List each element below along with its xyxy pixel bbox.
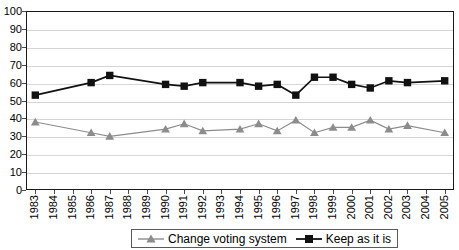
data-point-square xyxy=(274,81,281,88)
data-point-square xyxy=(404,79,411,86)
x-axis-tick xyxy=(203,190,204,194)
x-axis-tick xyxy=(91,190,92,194)
x-axis-tick xyxy=(259,190,260,194)
x-axis-tick-label: 2001 xyxy=(364,195,375,219)
data-point-triangle xyxy=(31,118,40,126)
x-axis-tick-label: 2002 xyxy=(383,195,394,219)
series-keep-as-it-is xyxy=(32,72,449,99)
data-point-square xyxy=(385,77,392,84)
x-axis-tick xyxy=(426,190,427,194)
x-axis-tick xyxy=(73,190,74,194)
data-point-square xyxy=(87,79,94,86)
legend-label-keep-as-it-is: Keep as it is xyxy=(326,233,391,245)
data-point-triangle xyxy=(291,116,300,124)
x-axis-tick-label: 1989 xyxy=(141,195,152,219)
series-change-voting-system xyxy=(31,116,449,140)
x-axis-tick xyxy=(333,190,334,194)
x-axis-tick-label: 1986 xyxy=(85,195,96,219)
data-point-square xyxy=(348,81,355,88)
data-point-triangle xyxy=(403,121,412,129)
x-axis-tick xyxy=(184,190,185,194)
x-axis-tick xyxy=(54,190,55,194)
x-axis-tick-label: 1996 xyxy=(271,195,282,219)
x-axis-tick-label: 1984 xyxy=(48,195,59,219)
x-axis-tick-label: 1990 xyxy=(160,195,171,219)
x-axis-tick xyxy=(445,190,446,194)
y-axis-tick-label: 90 xyxy=(10,23,22,34)
data-point-square xyxy=(292,91,299,98)
data-point-triangle xyxy=(254,120,263,128)
data-point-square xyxy=(180,82,187,89)
x-axis-tick-label: 1993 xyxy=(215,195,226,219)
y-axis: 1009080706050403020100 xyxy=(0,0,26,201)
x-axis-tick-label: 1983 xyxy=(29,195,40,219)
x-axis-tick xyxy=(370,190,371,194)
y-axis-tick-label: 80 xyxy=(10,41,22,52)
x-axis-tick-label: 1992 xyxy=(197,195,208,219)
y-axis-tick-label: 10 xyxy=(10,167,22,178)
legend-entry-keep-as-it-is: Keep as it is xyxy=(296,233,391,245)
x-axis-tick-label: 2000 xyxy=(346,195,357,219)
data-point-triangle xyxy=(180,120,189,128)
x-axis-tick xyxy=(128,190,129,194)
x-axis-tick-label: 1994 xyxy=(234,195,245,219)
x-axis-tick-label: 1995 xyxy=(253,195,264,219)
data-point-square xyxy=(441,77,448,84)
y-axis-tick-label: 30 xyxy=(10,131,22,142)
legend-entry-change-voting-system: Change voting system xyxy=(138,233,287,245)
data-point-triangle xyxy=(366,116,375,124)
x-axis-tick xyxy=(110,190,111,194)
data-point-triangle xyxy=(273,127,282,135)
y-axis-tick-label: 100 xyxy=(4,6,22,17)
x-axis-tick-label: 1999 xyxy=(327,195,338,219)
data-point-square xyxy=(367,84,374,91)
square-marker-icon xyxy=(296,233,322,245)
data-point-square xyxy=(106,72,113,79)
x-axis-tick-label: 1991 xyxy=(178,195,189,219)
series-layer xyxy=(26,11,454,190)
x-axis-tick xyxy=(147,190,148,194)
x-axis-tick-label: 2005 xyxy=(439,195,450,219)
data-point-square xyxy=(162,81,169,88)
x-axis-tick-label: 1985 xyxy=(67,195,78,219)
x-axis-tick xyxy=(407,190,408,194)
triangle-marker-icon xyxy=(138,233,164,245)
x-axis-tick xyxy=(221,190,222,194)
data-point-square xyxy=(329,74,336,81)
x-axis-tick-label: 1998 xyxy=(308,195,319,219)
data-point-square xyxy=(199,79,206,86)
x-axis-tick-label: 1987 xyxy=(104,195,115,219)
y-axis-tick-label: 20 xyxy=(10,149,22,160)
x-axis-tick xyxy=(352,190,353,194)
chart-container: 1009080706050403020100 19831984198519861… xyxy=(0,0,459,250)
x-axis-tick xyxy=(296,190,297,194)
x-axis-tick xyxy=(240,190,241,194)
legend-label-change-voting-system: Change voting system xyxy=(168,233,287,245)
chart-legend: Change voting system Keep as it is xyxy=(131,229,398,248)
data-point-square xyxy=(32,91,39,98)
y-axis-tick-label: 50 xyxy=(10,95,22,106)
x-axis-tick xyxy=(35,190,36,194)
x-axis-tick xyxy=(314,190,315,194)
y-axis-tick-label: 60 xyxy=(10,77,22,88)
x-axis-tick-label: 1988 xyxy=(122,195,133,219)
x-axis-tick-label: 2003 xyxy=(401,195,412,219)
x-axis-tick-label: 1997 xyxy=(290,195,301,219)
y-axis-tick-label: 70 xyxy=(10,59,22,70)
x-axis-tick xyxy=(389,190,390,194)
data-point-square xyxy=(236,79,243,86)
x-axis-tick xyxy=(166,190,167,194)
y-axis-tick-label: 40 xyxy=(10,113,22,124)
data-point-square xyxy=(255,82,262,89)
data-point-square xyxy=(311,74,318,81)
x-axis-tick xyxy=(277,190,278,194)
chart-title-cutoff xyxy=(0,0,459,7)
x-axis-tick-label: 2004 xyxy=(420,195,431,219)
